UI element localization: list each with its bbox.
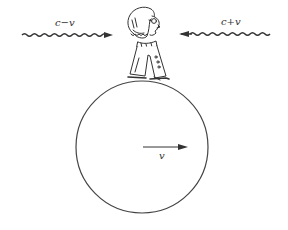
- arrowhead-right-icon: [178, 144, 188, 150]
- right-wave-label: c+v: [221, 17, 241, 27]
- velocity-arrow: [143, 144, 188, 150]
- planet-circle: [76, 81, 208, 213]
- velocity-label: v: [159, 151, 165, 161]
- left-wave-label: c−v: [55, 18, 75, 28]
- left-light-wave: [22, 32, 113, 38]
- arrowhead-left-icon: [179, 31, 189, 37]
- right-light-wave: [179, 31, 270, 37]
- diagram-canvas: [0, 0, 288, 230]
- observer-figure-icon: [128, 7, 169, 80]
- arrowhead-right-icon: [104, 32, 113, 38]
